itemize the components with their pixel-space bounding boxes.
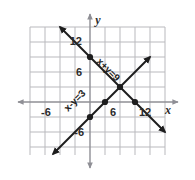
point-marker [87, 114, 93, 120]
point-marker [132, 99, 138, 105]
point-marker [117, 84, 123, 90]
y-tick-label-neg6: -6 [74, 126, 84, 138]
y-tick-label-12: 12 [70, 35, 82, 47]
graph-figure: -6 6 12 12 6 -6 x y x+y=9 x-y=3 [0, 0, 195, 180]
x-axis-label: x [164, 103, 171, 117]
point-marker [102, 99, 108, 105]
point-marker [87, 54, 93, 60]
coordinate-plane-svg: -6 6 12 12 6 -6 x y x+y=9 x-y=3 [0, 0, 195, 180]
grid-lines [30, 27, 165, 155]
equation-annotations: x+y=9 x-y=3 [62, 56, 123, 114]
axes [18, 14, 178, 168]
x-tick-label-neg6: -6 [41, 106, 51, 118]
equation-label-x-plus-y: x+y=9 [95, 56, 123, 84]
x-tick-label-12: 12 [139, 106, 151, 118]
x-tick-label-6: 6 [110, 106, 116, 118]
y-axis-label: y [93, 13, 101, 27]
y-tick-label-6: 6 [76, 66, 82, 78]
